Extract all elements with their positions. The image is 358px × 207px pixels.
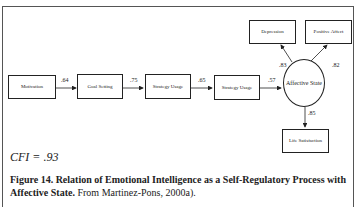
coef-motivation-goal: .64: [61, 77, 69, 83]
coef-affective-positive: .82: [332, 62, 340, 68]
figure-caption: Figure 14. Relation of Emotional Intelli…: [10, 173, 350, 199]
coef-affective-life: .85: [308, 110, 316, 116]
coef-goal-strategy: .75: [130, 77, 138, 83]
node-life-satisfaction: Life Satisfaction: [282, 129, 329, 153]
fit-index: CFI = .93: [10, 150, 58, 165]
coef-strategy-affective: .57: [268, 77, 276, 83]
node-affective-state: Affective State: [283, 59, 325, 107]
node-strategy-usage-1: Strategy Usage: [145, 74, 191, 99]
coef-strategy-strategy: .65: [198, 77, 206, 83]
caption-source: From Martinez-Pons, 2000a).: [75, 187, 196, 198]
node-positive-affect: Positive Affect: [305, 20, 352, 44]
coef-affective-depression: .83: [279, 62, 287, 68]
node-depression: Depression: [249, 20, 296, 44]
node-strategy-usage-2: Strategy Usage: [214, 75, 260, 100]
node-goal-setting: Goal Setting: [77, 74, 123, 99]
node-motivation: Motivation: [8, 75, 56, 99]
